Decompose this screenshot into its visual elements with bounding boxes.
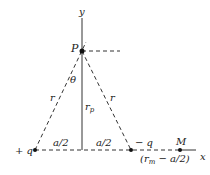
dipole-diagram: y x P θ r r rp a/2 a/2 + q − q M (rm − a… xyxy=(0,0,210,175)
label-plus-q: + q xyxy=(15,145,33,156)
y-axis-label: y xyxy=(78,6,85,17)
point-M xyxy=(178,148,182,152)
x-axis-label: x xyxy=(200,151,206,162)
point-plus-q xyxy=(33,148,37,152)
label-r-p: rp xyxy=(85,101,95,114)
label-half-a-left: a/2 xyxy=(53,137,69,148)
label-r-left: r xyxy=(50,92,56,103)
r-left-line xyxy=(35,42,86,150)
point-minus-q xyxy=(129,148,133,152)
label-theta: θ xyxy=(70,74,76,85)
label-half-a-right: a/2 xyxy=(96,137,112,148)
label-P: P xyxy=(70,42,79,55)
label-r-right: r xyxy=(110,92,116,103)
point-P xyxy=(80,49,85,54)
label-rm-minus-half-a: (rm − a/2) xyxy=(140,153,190,166)
label-M: M xyxy=(175,136,187,147)
label-minus-q: − q xyxy=(135,137,153,148)
